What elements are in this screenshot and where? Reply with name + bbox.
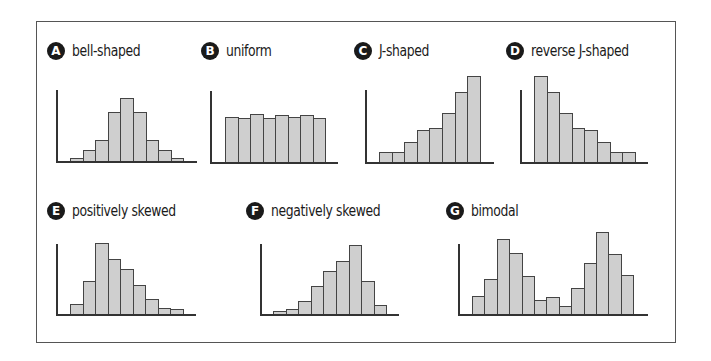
- histogram-bar: [534, 300, 547, 314]
- histogram-bar: [497, 239, 510, 314]
- histogram-bar: [311, 286, 325, 314]
- panel-label: bimodal: [471, 201, 518, 220]
- letter-badge-icon: B: [201, 42, 219, 60]
- y-axis: [365, 90, 367, 163]
- panel-label: bell-shaped: [72, 41, 140, 60]
- histogram-bar: [559, 113, 573, 162]
- panel-title-b: B uniform: [201, 41, 279, 60]
- histogram-bar: [95, 243, 109, 314]
- histogram-bar: [133, 112, 147, 161]
- panel-title-d: D reverse J-shaped: [506, 41, 645, 60]
- x-axis: [56, 161, 197, 163]
- x-axis: [365, 162, 494, 164]
- histogram-bar: [170, 309, 184, 314]
- histogram-bar: [336, 261, 350, 314]
- letter-badge-icon: D: [506, 42, 524, 60]
- letter-badge-icon: A: [47, 42, 65, 60]
- histogram-bar: [238, 118, 252, 162]
- histogram-bar: [571, 288, 584, 314]
- panel-label: J-shaped: [379, 41, 429, 60]
- histogram-bar: [275, 115, 289, 162]
- letter-badge-icon: E: [47, 202, 65, 220]
- histogram-bar: [273, 311, 287, 314]
- letter-badge-icon: G: [446, 202, 464, 220]
- histogram-bar: [455, 92, 469, 162]
- histogram-bar: [404, 142, 418, 162]
- histogram-bar: [349, 245, 363, 314]
- histogram-bar: [323, 271, 337, 314]
- panel-label: positively skewed: [72, 201, 176, 220]
- histogram-bar: [133, 285, 147, 314]
- histogram-bar: [572, 128, 586, 162]
- histogram-bar: [417, 130, 431, 162]
- panel-title-e: E positively skewed: [47, 201, 193, 220]
- histogram-bar: [547, 92, 561, 162]
- histogram-bar: [472, 296, 485, 314]
- histogram-bar: [225, 117, 239, 162]
- x-axis: [520, 162, 648, 164]
- y-axis: [210, 91, 212, 163]
- histogram-bar: [361, 281, 375, 314]
- histogram-bar: [442, 113, 456, 162]
- histogram-bar: [374, 305, 388, 314]
- histogram-bar: [108, 112, 122, 161]
- histogram-bar: [559, 306, 572, 314]
- histogram-bar: [95, 140, 109, 161]
- histogram-bar: [250, 114, 264, 162]
- histogram-bar: [610, 152, 624, 162]
- y-axis: [520, 90, 522, 163]
- histogram-bar: [300, 115, 314, 162]
- histogram-bar: [108, 259, 122, 314]
- histogram-bar: [596, 232, 609, 314]
- x-axis: [458, 314, 648, 316]
- histogram-bar: [298, 301, 312, 314]
- panel-label: reverse J-shaped: [531, 41, 629, 60]
- histogram-bar: [83, 150, 97, 161]
- histogram-bar: [83, 281, 97, 314]
- letter-badge-icon: C: [354, 42, 372, 60]
- histogram-bar: [158, 308, 172, 314]
- histogram-bar: [70, 304, 84, 314]
- panel-title-c: C J-shaped: [354, 41, 437, 60]
- panel-label: uniform: [226, 41, 272, 60]
- histogram-bar: [429, 128, 443, 162]
- y-axis: [56, 244, 58, 315]
- histogram-bar: [509, 253, 522, 314]
- panel-title-f: F negatively skewed: [246, 201, 398, 220]
- x-axis: [260, 314, 399, 316]
- histogram-bar: [584, 130, 598, 162]
- histogram-bar: [288, 117, 302, 162]
- histogram-bar: [467, 76, 481, 162]
- x-axis: [56, 314, 196, 316]
- panel-title-a: A bell-shaped: [47, 41, 151, 60]
- y-axis: [458, 244, 460, 315]
- y-axis: [56, 90, 58, 162]
- panel-label: negatively skewed: [271, 201, 380, 220]
- histogram-bar: [621, 275, 634, 314]
- panel-title-g: G bimodal: [446, 201, 526, 220]
- histogram-bar: [484, 279, 497, 314]
- histogram-bar: [584, 263, 597, 314]
- histogram-bar: [263, 118, 277, 162]
- histogram-bar: [286, 309, 300, 314]
- histogram-bar: [171, 158, 185, 161]
- letter-badge-icon: F: [246, 202, 264, 220]
- histogram-bar: [546, 297, 559, 314]
- histogram-bar: [146, 140, 160, 161]
- histogram-bar: [313, 118, 327, 162]
- histogram-bar: [70, 158, 84, 161]
- histogram-bar: [120, 269, 134, 314]
- histogram-bar: [597, 142, 611, 162]
- x-axis: [210, 162, 338, 164]
- histogram-bar: [608, 254, 621, 314]
- histogram-bar: [158, 150, 172, 161]
- histogram-bar: [145, 299, 159, 314]
- y-axis: [260, 244, 262, 315]
- histogram-bar: [522, 276, 535, 314]
- histogram-bar: [392, 152, 406, 162]
- histogram-bar: [379, 152, 393, 162]
- histogram-bar: [120, 98, 134, 161]
- histogram-bar: [622, 152, 636, 162]
- histogram-bar: [534, 76, 548, 162]
